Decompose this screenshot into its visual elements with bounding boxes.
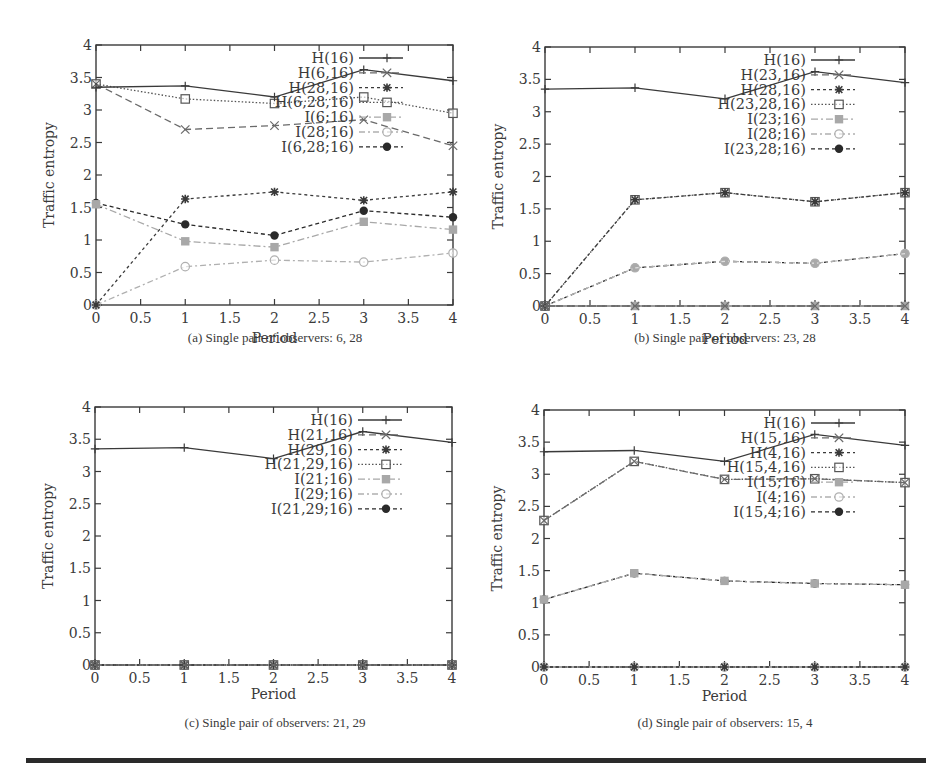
chart-d: 00.511.522.533.5400.511.522.533.54Period… (0, 0, 951, 783)
series-group (540, 430, 909, 671)
y-tick-label: 3.5 (518, 434, 540, 450)
y-tick-label: 1.5 (518, 563, 540, 579)
axis-ticks: 00.511.522.533.5400.511.522.533.54 (518, 402, 910, 688)
bottom-rule (26, 758, 926, 763)
legend: H(16)H(15,16)H(4,16)H(15,4,16)I(15;16)I(… (727, 415, 855, 520)
legend-label: H(16) (764, 415, 806, 431)
x-tick-label: 0.5 (578, 672, 600, 688)
x-tick-label: 1.5 (668, 672, 690, 688)
series-i-15-4-16- (540, 569, 909, 604)
y-tick-label: 2 (531, 531, 540, 547)
legend-label: I(15,4;16) (733, 504, 806, 520)
x-tick-label: 1 (630, 672, 639, 688)
x-tick-label: 2.5 (758, 672, 780, 688)
x-tick-label: 4 (901, 672, 910, 688)
y-tick-label: 0.5 (518, 627, 540, 643)
legend-label: I(15;16) (747, 474, 806, 490)
legend-label: I(4;16) (756, 489, 806, 505)
y-tick-label: 3 (531, 466, 540, 482)
y-tick-label: 0 (531, 659, 540, 675)
series-h-16- (540, 430, 909, 465)
chart-caption-d: (d) Single pair of observers: 15, 4 (450, 715, 951, 731)
x-tick-label: 3 (810, 672, 819, 688)
x-tick-label: 2 (720, 672, 729, 688)
x-axis-label: Period (702, 688, 748, 704)
y-tick-label: 2.5 (518, 498, 540, 514)
legend-label: H(15,4,16) (727, 459, 806, 475)
legend-label: H(15,16) (741, 430, 806, 446)
x-tick-label: 3.5 (849, 672, 871, 688)
y-tick-label: 1 (531, 595, 540, 611)
y-axis-label: Traffic entropy (489, 485, 505, 591)
x-tick-label: 0 (540, 672, 549, 688)
chart-panel-d: 00.511.522.533.5400.511.522.533.54Period… (0, 0, 951, 783)
y-tick-label: 4 (531, 402, 540, 418)
legend-label: H(4,16) (750, 445, 806, 461)
plot-frame (544, 410, 905, 667)
series-i-15-16- (540, 569, 909, 604)
